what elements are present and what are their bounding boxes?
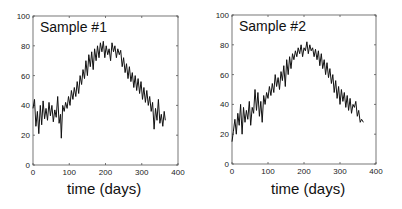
y-tick-label: 20	[21, 131, 30, 140]
y-tick-label: 40	[220, 100, 229, 109]
x-axis-label: time (days)	[271, 180, 345, 197]
x-axis-label: time (days)	[67, 180, 141, 197]
plot-sample-1: 0204060801000100200300400Sample #1	[0, 0, 201, 209]
plot-title: Sample #1	[40, 19, 107, 35]
x-tick-label: 400	[369, 167, 383, 176]
x-tick-label: 300	[135, 168, 149, 177]
chart-panel-sample-2: 0204060801000100200300400Sample #2 time …	[201, 0, 402, 209]
data-line	[33, 41, 165, 138]
y-tick-label: 100	[17, 12, 31, 21]
x-tick-label: 100	[63, 168, 77, 177]
y-tick-label: 40	[21, 101, 30, 110]
plot-sample-2: 0204060801000100200300400Sample #2	[201, 0, 402, 209]
x-tick-label: 200	[99, 168, 113, 177]
x-tick-label: 0	[230, 167, 235, 176]
y-tick-label: 60	[220, 71, 229, 80]
x-tick-label: 400	[171, 168, 185, 177]
chart-panel-sample-1: 0204060801000100200300400Sample #1 time …	[0, 0, 201, 209]
y-tick-label: 80	[220, 41, 229, 50]
y-tick-label: 80	[21, 42, 30, 51]
x-tick-label: 0	[31, 168, 36, 177]
plot-title: Sample #2	[239, 18, 306, 34]
x-tick-label: 100	[261, 167, 275, 176]
data-line	[232, 42, 363, 142]
x-tick-label: 200	[297, 167, 311, 176]
plot-frame	[33, 16, 178, 165]
x-tick-label: 300	[333, 167, 347, 176]
y-tick-label: 60	[21, 72, 30, 81]
y-tick-label: 20	[220, 130, 229, 139]
plot-frame	[232, 15, 376, 164]
y-tick-label: 100	[216, 11, 230, 20]
